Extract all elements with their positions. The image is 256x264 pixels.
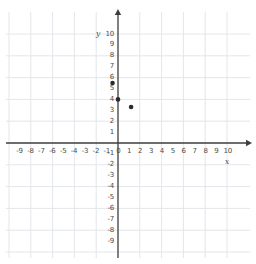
x-tick-label: 1 [127, 148, 131, 155]
y-tick-label: 1 [100, 129, 114, 136]
x-tick-label: 4 [160, 148, 164, 155]
y-tick-label: 6 [100, 74, 114, 81]
y-tick-label: -6 [100, 205, 114, 212]
x-tick-label: -2 [93, 148, 100, 155]
x-tick-label: -7 [38, 148, 45, 155]
y-tick-label: -4 [100, 183, 114, 190]
x-tick-label: 5 [171, 148, 175, 155]
x-tick-label: -6 [49, 148, 56, 155]
graph-svg [0, 0, 256, 264]
y-tick-label: 4 [100, 96, 114, 103]
y-tick-label: -2 [100, 161, 114, 168]
x-tick-label: 8 [203, 148, 207, 155]
x-tick-label: -9 [16, 148, 23, 155]
y-tick-label: 2 [100, 118, 114, 125]
x-axis-label: x [225, 158, 229, 166]
coordinate-plane-figure: -9-8-7-6-5-4-3-2-10123456789101098765432… [0, 0, 256, 264]
x-tick-label: 7 [193, 148, 197, 155]
x-tick-label: 0 [116, 148, 120, 155]
x-tick-label: -8 [27, 148, 34, 155]
x-tick-label: 9 [214, 148, 218, 155]
x-tick-label: 2 [138, 148, 142, 155]
x-tick-label: -5 [60, 148, 67, 155]
grid-lines [6, 12, 250, 258]
y-tick-label: -8 [100, 227, 114, 234]
y-axis-arrowhead [115, 9, 121, 15]
axes [6, 9, 252, 258]
y-tick-label: 8 [100, 52, 114, 59]
y-tick-label: -9 [100, 238, 114, 245]
y-tick-label: -7 [100, 216, 114, 223]
y-tick-label: -1 [100, 150, 114, 157]
x-tick-label: 10 [223, 148, 232, 155]
y-tick-label: -3 [100, 172, 114, 179]
x-tick-label: -3 [82, 148, 89, 155]
y-tick-label: 10 [100, 31, 114, 38]
y-tick-label: 3 [100, 107, 114, 114]
x-tick-label: -4 [71, 148, 78, 155]
y-axis-label: y [96, 30, 100, 38]
x-tick-label: 6 [182, 148, 186, 155]
data-point [116, 97, 121, 102]
x-tick-label: 3 [149, 148, 153, 155]
y-tick-label: -5 [100, 194, 114, 201]
y-tick-label: 5 [100, 85, 114, 92]
y-tick-label: 7 [100, 63, 114, 70]
data-point [129, 105, 134, 110]
x-axis-arrowhead [246, 140, 252, 146]
y-tick-label: 9 [100, 41, 114, 48]
